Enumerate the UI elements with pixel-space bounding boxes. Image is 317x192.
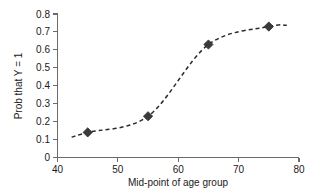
y-tick-label: 0.5 (36, 62, 50, 73)
y-tick-label: 0.1 (36, 134, 50, 145)
y-tick-label: 0.2 (36, 116, 50, 127)
x-tick-label: 40 (52, 164, 64, 175)
x-axis-title: Mid-point of age group (128, 177, 229, 188)
axes-group (58, 14, 300, 158)
series-group (72, 22, 287, 137)
chart-plot-area: 00.10.20.30.40.50.60.70.8 4050607080 Mid… (0, 0, 317, 192)
x-axis-ticks: 4050607080 (52, 158, 305, 176)
y-tick-label: 0.6 (36, 44, 50, 55)
x-tick-label: 80 (293, 164, 305, 175)
y-tick-label: 0 (44, 152, 50, 163)
y-tick-label: 0.4 (36, 80, 50, 91)
chart-figure: 00.10.20.30.40.50.60.70.8 4050607080 Mid… (0, 0, 317, 192)
y-tick-label: 0.3 (36, 98, 50, 109)
x-tick-label: 50 (112, 164, 124, 175)
x-tick-label: 60 (173, 164, 185, 175)
y-tick-label: 0.8 (36, 9, 50, 20)
series-line-prob (72, 25, 287, 137)
data-point-marker (83, 128, 92, 137)
data-point-marker (264, 22, 273, 31)
x-tick-label: 70 (233, 164, 245, 175)
y-axis-ticks: 00.10.20.30.40.50.60.70.8 (36, 9, 57, 164)
y-axis-title: Prob that Y = 1 (13, 52, 24, 119)
y-tick-label: 0.7 (36, 26, 50, 37)
